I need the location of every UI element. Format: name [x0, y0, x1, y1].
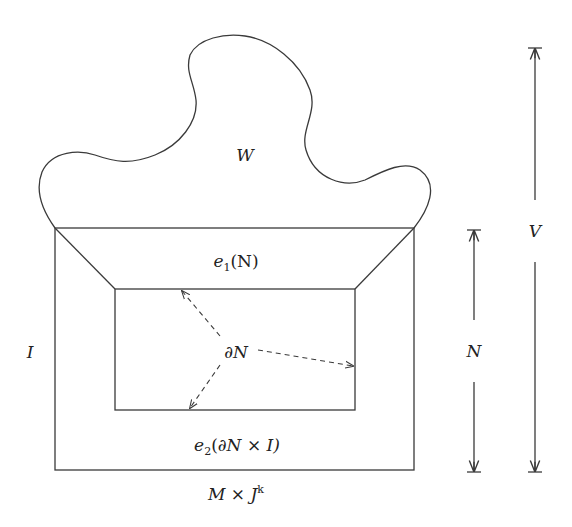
- label-boundary-n: ∂N: [224, 342, 249, 362]
- dimension-arrow-v: [528, 48, 542, 472]
- cobordism-diagram: W e1(N) ∂N I e2(∂N × I) M × Jk N V: [0, 0, 572, 527]
- label-n: N: [466, 341, 483, 361]
- dashed-arrow-up-left: [182, 291, 220, 336]
- trapezoid-right-edge: [355, 228, 414, 289]
- dashed-arrow-right: [258, 350, 353, 366]
- region-w-blob: [39, 35, 430, 228]
- label-m-times-jk: M × Jk: [207, 483, 264, 504]
- label-i: I: [26, 342, 34, 362]
- dashed-arrow-down-left: [190, 365, 220, 408]
- trapezoid-left-edge: [55, 228, 115, 289]
- label-e2-boundary-n-times-i: e2(∂N × I): [194, 435, 280, 458]
- label-e1-n: e1(N): [213, 251, 258, 274]
- label-w: W: [236, 145, 255, 165]
- label-v: V: [529, 221, 543, 241]
